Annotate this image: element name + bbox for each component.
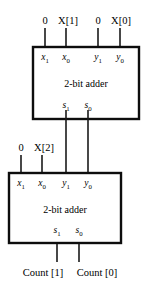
upper-input-label-y1: 0 — [95, 15, 100, 26]
lower-pin-x0-subscript: 0 — [42, 183, 46, 190]
upper-input-label-x1: 0 — [42, 15, 47, 26]
upper-pin-y0-subscript: 0 — [120, 57, 124, 64]
upper-adder-label: 2-bit adder — [64, 78, 108, 89]
upper-input-label-y0: X[0] — [111, 15, 131, 26]
output-label-count0: Count [0] — [77, 267, 118, 278]
lower-pin-y0-subscript: 0 — [88, 183, 92, 190]
upper-pin-x0-subscript: 0 — [66, 57, 70, 64]
lower-input-label-x1: 0 — [18, 142, 23, 153]
lower-pin-s1-subscript: 1 — [57, 230, 60, 237]
lower-input-label-x0: X[2] — [34, 142, 54, 153]
output-label-count1: Count [1] — [23, 267, 64, 278]
lower-adder-input-wires — [21, 155, 42, 173]
lower-pin-y1-subscript: 1 — [66, 183, 69, 190]
adder-chain-diagram: 0 X[1] 0 X[0] x1 x0 y1 y0 2-bit adder s1… — [0, 0, 153, 293]
upper-pin-x1-subscript: 1 — [45, 57, 48, 64]
upper-input-label-x0: X[1] — [58, 15, 78, 26]
output-wires — [57, 244, 79, 262]
upper-adder-input-wires — [45, 28, 120, 46]
lower-pin-s0-subscript: 0 — [79, 230, 83, 237]
lower-pin-x1-subscript: 1 — [21, 183, 24, 190]
upper-pin-y1-subscript: 1 — [98, 57, 101, 64]
lower-adder-label: 2-bit adder — [43, 204, 87, 215]
